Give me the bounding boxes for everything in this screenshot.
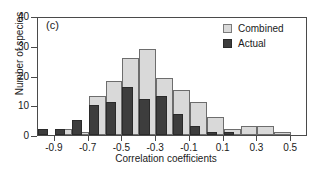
x-axis-tick-label: -0.7	[73, 142, 103, 153]
bar-actual	[207, 132, 217, 135]
bar-combined	[257, 126, 274, 135]
bar-combined	[241, 126, 258, 135]
bar-actual	[89, 105, 99, 135]
legend: CombinedActual	[223, 22, 284, 52]
x-axis-tick	[256, 136, 257, 141]
panel-label: (c)	[46, 19, 59, 31]
y-axis-tick-label: 10	[8, 101, 29, 111]
histogram-figure: Number of species 010203040 -0.9-0.7-0.5…	[0, 0, 332, 169]
bar-actual	[190, 126, 200, 135]
x-axis-tick-label: -0.5	[106, 142, 136, 153]
x-axis-tick-label: 0.3	[241, 142, 271, 153]
bar-actual	[38, 129, 48, 135]
x-axis-tick	[121, 136, 122, 141]
y-axis-tick-label: 40	[8, 12, 29, 22]
x-axis-title: Correlation coefficients	[0, 153, 332, 164]
y-axis-tick-label: 30	[8, 42, 29, 52]
legend-swatch-combined	[223, 24, 232, 33]
legend-item: Actual	[223, 37, 284, 50]
bar-actual	[224, 132, 234, 135]
bar-actual	[156, 96, 166, 135]
x-axis-tick	[155, 136, 156, 141]
x-axis-tick	[54, 136, 55, 141]
bar-combined	[274, 132, 291, 135]
x-axis-tick	[290, 136, 291, 141]
bar-actual	[55, 129, 65, 135]
bar-actual	[173, 114, 183, 135]
x-axis-tick	[189, 136, 190, 141]
y-axis-tick	[31, 136, 37, 137]
legend-swatch-actual	[223, 39, 232, 48]
y-axis-tick-label: 20	[8, 72, 29, 82]
x-axis-tick-label: -0.1	[174, 142, 204, 153]
legend-label: Combined	[238, 23, 284, 34]
bar-actual	[139, 99, 149, 135]
x-axis-tick-label: -0.3	[140, 142, 170, 153]
bar-actual	[106, 102, 116, 135]
x-axis-tick-label: -0.9	[39, 142, 69, 153]
x-axis-tick-label: 0.1	[208, 142, 238, 153]
bar-actual	[72, 120, 82, 135]
x-axis-tick	[223, 136, 224, 141]
legend-label: Actual	[238, 38, 266, 49]
y-axis-tick-label: 0	[8, 131, 29, 141]
x-axis-tick	[88, 136, 89, 141]
bar-actual	[122, 87, 132, 135]
x-axis-tick-label: 0.5	[275, 142, 305, 153]
legend-item: Combined	[223, 22, 284, 35]
